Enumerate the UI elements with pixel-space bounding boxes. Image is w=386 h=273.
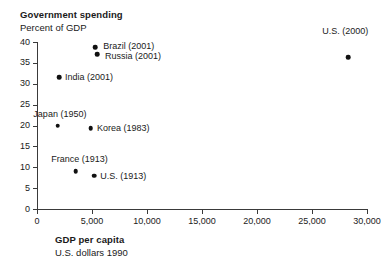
data-point-label: Korea (1983) bbox=[97, 124, 150, 133]
y-axis-line bbox=[37, 42, 38, 210]
y-tick-label: 0 bbox=[0, 205, 30, 214]
y-tick bbox=[33, 42, 37, 43]
data-point-label: France (1913) bbox=[51, 155, 108, 164]
data-point-label: Russia (2001) bbox=[105, 52, 161, 61]
y-tick-label: 35 bbox=[0, 58, 30, 67]
x-tick bbox=[92, 210, 93, 214]
x-tick-label: 30,000 bbox=[337, 217, 386, 226]
data-point-label: India (2001) bbox=[65, 73, 113, 82]
data-point bbox=[346, 55, 351, 60]
x-axis-title-block: GDP per capita U.S. dollars 1990 bbox=[55, 234, 128, 259]
data-point bbox=[57, 75, 62, 80]
data-point bbox=[89, 126, 94, 131]
data-point bbox=[73, 169, 78, 174]
x-tick-label: 10,000 bbox=[117, 217, 177, 226]
x-tick-label: 20,000 bbox=[227, 217, 287, 226]
chart-figure: Government spending Percent of GDP 05101… bbox=[0, 0, 386, 273]
plot-area: 0510152025303540 05,00010,00015,00020,00… bbox=[37, 42, 367, 209]
y-tick bbox=[33, 188, 37, 189]
y-tick-label: 25 bbox=[0, 100, 30, 109]
x-tick bbox=[312, 210, 313, 214]
y-tick-label: 10 bbox=[0, 163, 30, 172]
x-axis-title-sub: U.S. dollars 1990 bbox=[55, 247, 128, 259]
data-point bbox=[56, 123, 61, 128]
chart-subtitle: Percent of GDP bbox=[20, 22, 123, 34]
y-tick-label: 40 bbox=[0, 38, 30, 47]
x-tick-label: 15,000 bbox=[172, 217, 232, 226]
x-axis-title: GDP per capita bbox=[55, 234, 128, 246]
data-point-label: Brazil (2001) bbox=[103, 42, 154, 51]
x-tick bbox=[202, 210, 203, 214]
chart-title: Government spending bbox=[20, 9, 123, 21]
x-tick bbox=[367, 210, 368, 214]
x-tick bbox=[37, 210, 38, 214]
y-tick-label: 20 bbox=[0, 121, 30, 130]
x-tick bbox=[257, 210, 258, 214]
y-tick bbox=[33, 105, 37, 106]
y-tick bbox=[33, 167, 37, 168]
x-tick bbox=[147, 210, 148, 214]
data-point bbox=[92, 173, 97, 178]
y-tick-label: 30 bbox=[0, 79, 30, 88]
chart-title-block: Government spending Percent of GDP bbox=[20, 9, 123, 34]
y-tick-label: 15 bbox=[0, 142, 30, 151]
x-tick-label: 5,000 bbox=[62, 217, 122, 226]
x-tick-label: 0 bbox=[7, 217, 67, 226]
y-tick-label: 5 bbox=[0, 184, 30, 193]
data-point bbox=[95, 52, 100, 57]
y-tick bbox=[33, 63, 37, 64]
data-point-label: U.S. (1913) bbox=[100, 171, 146, 180]
y-tick bbox=[33, 126, 37, 127]
data-point-label: U.S. (2000) bbox=[322, 27, 368, 36]
y-tick bbox=[33, 84, 37, 85]
x-tick-label: 25,000 bbox=[282, 217, 342, 226]
data-point bbox=[93, 45, 98, 50]
y-tick bbox=[33, 146, 37, 147]
data-point-label: Japan (1950) bbox=[33, 110, 86, 119]
